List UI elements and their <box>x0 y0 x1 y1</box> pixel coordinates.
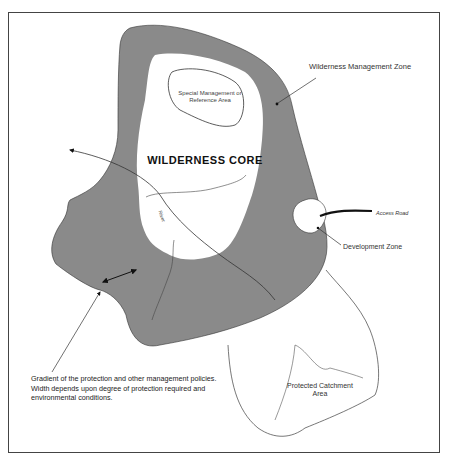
access-road <box>320 211 372 216</box>
catchment-stream-2 <box>295 345 363 378</box>
gradient-pointer-arrow <box>52 292 100 372</box>
label-access-road: Access Road <box>376 210 446 216</box>
label-wilderness-management-zone: Wilderness Management Zone <box>300 63 420 72</box>
label-wilderness-core: WILDERNESS CORE <box>145 154 265 167</box>
label-special-management-area: Special Management or Reference Area <box>170 90 250 104</box>
label-gradient-note: Gradient of the protection and other man… <box>31 374 231 403</box>
label-development-zone: Development Zone <box>343 243 423 251</box>
label-protected-catchment-area: Protected Catchment Area <box>285 382 355 398</box>
